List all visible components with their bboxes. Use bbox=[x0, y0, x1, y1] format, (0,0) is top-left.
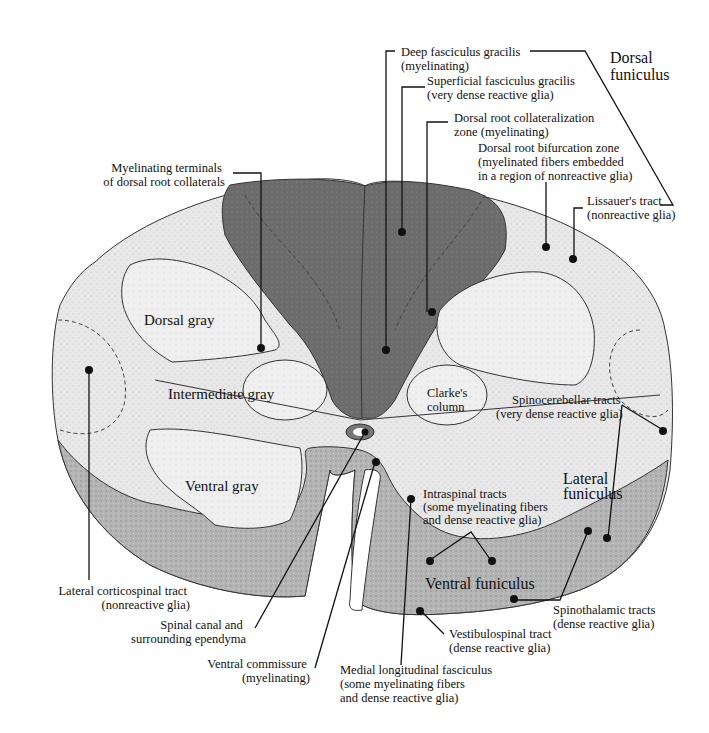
label-superficial-fasciculus-gracilis: Superficial fasciculus gracilis (very de… bbox=[427, 74, 578, 102]
marker-spinal-canal bbox=[362, 429, 369, 436]
label-myelinating-terminals: Myelinating terminals of dorsal root col… bbox=[103, 161, 225, 189]
marker-spinothalamic-a bbox=[584, 527, 592, 535]
marker-spinothalamic-b bbox=[510, 595, 518, 603]
marker-collateralization bbox=[428, 308, 436, 316]
marker-mlf bbox=[407, 495, 415, 503]
marker-spinocerebellar-b bbox=[603, 534, 611, 542]
marker-myelinating-terminals bbox=[257, 344, 265, 352]
label-clarkes-column: Clarke's column bbox=[427, 386, 471, 414]
label-vestibulospinal-tract: Vestibulospinal tract (dense reactive gl… bbox=[449, 627, 555, 655]
label-spinothalamic-tracts: Spinothalamic tracts (dense reactive gli… bbox=[553, 603, 659, 631]
marker-intraspinal-b bbox=[488, 557, 496, 565]
marker-vestibulospinal bbox=[416, 607, 424, 615]
spinal-cord-diagram: Dorsal funiculus Deep fasciculus gracili… bbox=[0, 0, 709, 733]
label-dorsal-funiculus: Dorsal funiculus bbox=[610, 49, 670, 83]
label-dorsal-gray: Dorsal gray bbox=[144, 312, 215, 328]
label-ventral-gray: Ventral gray bbox=[185, 478, 259, 494]
label-ventral-funiculus: Ventral funiculus bbox=[425, 575, 535, 592]
marker-intraspinal-a bbox=[426, 557, 434, 565]
label-ventral-commissure: Ventral commissure (myelinating) bbox=[207, 657, 310, 685]
label-dorsal-root-collateralization: Dorsal root collateralization zone (myel… bbox=[454, 111, 597, 139]
label-lateral-corticospinal-tract: Lateral corticospinal tract (nonreactive… bbox=[58, 584, 190, 612]
label-lissauers-tract: Lissauer's tract (nonreactive glia) bbox=[587, 194, 676, 222]
marker-lateral-corticospinal bbox=[85, 366, 93, 374]
marker-ventral-commissure bbox=[372, 458, 380, 466]
marker-spinocerebellar-a bbox=[659, 427, 667, 435]
marker-deep-fasciculus bbox=[382, 346, 390, 354]
label-spinocerebellar-tracts: Spinocerebellar tracts (very dense react… bbox=[496, 393, 624, 421]
label-dorsal-root-bifurcation: Dorsal root bifurcation zone (myelinated… bbox=[478, 141, 632, 183]
label-spinal-canal: Spinal canal and surrounding ependyma bbox=[131, 618, 246, 646]
label-deep-fasciculus-gracilis: Deep fasciculus gracilis (myelinating) bbox=[401, 45, 524, 73]
label-intermediate-gray: Intermediate gray bbox=[168, 386, 275, 402]
marker-lissauer bbox=[569, 255, 577, 263]
label-medial-longitudinal-fasciculus: Medial longitudinal fasciculus (some mye… bbox=[340, 663, 495, 705]
marker-bifurcation bbox=[542, 243, 550, 251]
marker-superficial-fasciculus bbox=[398, 228, 406, 236]
